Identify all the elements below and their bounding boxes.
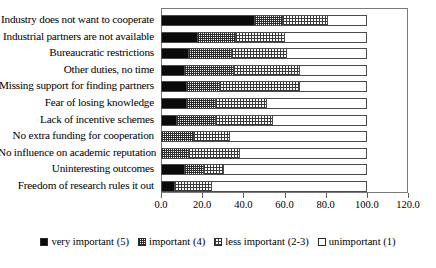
bar-segment (162, 33, 197, 42)
category-label: No influence on academic reputation (0, 147, 154, 158)
legend-label: important (4) (149, 236, 205, 247)
legend-item: important (4) (138, 236, 205, 247)
x-axis-tick (408, 193, 409, 198)
category-label: Uninteresting outcomes (0, 163, 154, 174)
legend-item: very important (5) (40, 236, 129, 247)
x-axis-tick-label: 100.0 (355, 199, 379, 211)
category-label: No extra funding for cooperation (0, 130, 154, 141)
bar-row (161, 131, 367, 142)
legend-label: less important (2-3) (225, 236, 309, 247)
bar-segment (211, 182, 366, 191)
category-label: Industry does not want to cooperate (0, 14, 154, 25)
x-axis-tick-label: 40.0 (234, 199, 252, 211)
bar-row (161, 81, 367, 92)
bar-segment (162, 49, 188, 58)
bar-segment (162, 165, 184, 174)
bar-segment (162, 66, 184, 75)
x-axis-tick (161, 193, 162, 198)
bar-segment (215, 116, 272, 125)
bar-row (161, 115, 367, 126)
bar-row (161, 15, 367, 26)
legend-swatch-icon (40, 238, 48, 246)
bar-segment (193, 132, 230, 141)
bar-row (161, 148, 367, 159)
bar-segment (174, 182, 211, 191)
legend-item: unimportant (1) (318, 236, 396, 247)
bar-rows (161, 8, 408, 193)
bar-row (161, 181, 367, 192)
bar-segment (162, 182, 174, 191)
bar-segment (186, 82, 219, 91)
bar-segment (184, 165, 202, 174)
x-axis-tick (367, 193, 368, 198)
bar-segment (162, 16, 254, 25)
chart-legend: very important (5)important (4)less impo… (0, 236, 436, 247)
category-axis-labels: Industry does not want to cooperateIndus… (0, 8, 158, 193)
x-axis-tick (243, 193, 244, 198)
bar-segment (231, 49, 286, 58)
bar-segment (286, 49, 365, 58)
bar-segment (162, 132, 193, 141)
bar-segment (235, 33, 284, 42)
category-label: Missing support for finding partners (0, 80, 154, 91)
x-axis-tick (326, 193, 327, 198)
bar-segment (197, 33, 236, 42)
bar-row (161, 32, 367, 43)
bar-segment (254, 16, 283, 25)
bar-row (161, 164, 367, 175)
bar-segment (162, 99, 186, 108)
x-axis-tick-label: 60.0 (275, 199, 293, 211)
category-label: Lack of incentive schemes (0, 114, 154, 125)
bar-segment (162, 149, 188, 158)
bar-segment (176, 116, 215, 125)
bar-segment (299, 82, 366, 91)
bar-segment (162, 116, 176, 125)
x-axis-tick-labels: 0.020.040.060.080.0100.0120.0 (0, 199, 436, 213)
bar-segment (233, 66, 298, 75)
x-axis-tick (202, 193, 203, 198)
bar-segment (188, 49, 231, 58)
bar-row (161, 48, 367, 59)
bar-segment (266, 99, 366, 108)
category-label: Other duties, no time (0, 64, 154, 75)
bar-segment (282, 16, 327, 25)
legend-item: less important (2-3) (214, 236, 309, 247)
legend-swatch-icon (318, 238, 326, 246)
bar-segment (284, 33, 366, 42)
category-label: Industrial partners are not available (0, 31, 154, 42)
bar-segment (188, 149, 239, 158)
bar-row (161, 98, 367, 109)
bar-segment (223, 165, 366, 174)
legend-label: unimportant (1) (329, 236, 396, 247)
bar-row (161, 65, 367, 76)
x-axis-tick (285, 193, 286, 198)
category-label: Fear of losing knowledge (0, 97, 154, 108)
bar-segment (229, 132, 366, 141)
x-axis-tick-label: 120.0 (396, 199, 420, 211)
bar-segment (162, 82, 186, 91)
stacked-bar-chart: Industry does not want to cooperateIndus… (0, 0, 436, 268)
bar-segment (239, 149, 365, 158)
bar-segment (327, 16, 366, 25)
bar-segment (219, 82, 298, 91)
x-axis-tick-label: 0.0 (154, 199, 167, 211)
category-label: Freedom of research rules it out (0, 180, 154, 191)
bar-segment (186, 99, 215, 108)
category-label: Bureaucratic restrictions (0, 47, 154, 58)
bar-segment (272, 116, 366, 125)
bar-segment (203, 165, 223, 174)
legend-label: very important (5) (51, 236, 129, 247)
bar-segment (215, 99, 266, 108)
x-axis-tick-label: 80.0 (316, 199, 334, 211)
bar-segment (299, 66, 366, 75)
x-axis-tick-label: 20.0 (193, 199, 211, 211)
legend-swatch-icon (138, 238, 146, 246)
legend-swatch-icon (214, 238, 222, 246)
bar-segment (184, 66, 233, 75)
